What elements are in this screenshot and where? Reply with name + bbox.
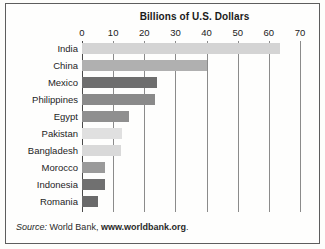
x-tick-label: 20 (139, 27, 150, 38)
x-tick-label: 50 (232, 27, 243, 38)
bar-row (82, 143, 300, 160)
bar-china (82, 60, 207, 71)
source-url-link[interactable]: www.worldbank.org (101, 222, 186, 232)
category-label-philippines: Philippines (8, 94, 78, 105)
chart-title: Billions of U.S. Dollars (82, 11, 307, 22)
bar-romania (82, 196, 98, 207)
bar-row (82, 194, 300, 211)
category-label-china: China (8, 60, 78, 71)
bar-row (82, 58, 300, 75)
bar-philippines (82, 94, 155, 105)
bar-morocco (82, 162, 105, 173)
category-label-bangladesh: Bangladesh (8, 145, 78, 156)
x-tick-label: 0 (79, 27, 84, 38)
x-tick-label: 70 (295, 27, 306, 38)
source-prefix: Source: (16, 222, 47, 232)
bar-mexico (82, 77, 157, 88)
bar-egypt (82, 111, 129, 122)
bar-pakistan (82, 128, 122, 139)
bar-row (82, 109, 300, 126)
x-tick-label: 60 (264, 27, 275, 38)
x-axis-tick-labels: 010203040506070 (0, 27, 325, 40)
x-tick-label: 30 (170, 27, 181, 38)
category-label-indonesia: Indonesia (8, 179, 78, 190)
category-label-mexico: Mexico (8, 77, 78, 88)
x-tick-label: 40 (201, 27, 212, 38)
source-note: Source: World Bank, www.worldbank.org. (16, 222, 189, 232)
plot-area (82, 41, 300, 212)
chart-figure: Billions of U.S. Dollars 010203040506070… (0, 0, 325, 249)
bar-row (82, 75, 300, 92)
category-label-egypt: Egypt (8, 111, 78, 122)
source-organization: World Bank, (47, 222, 98, 232)
bar-india (82, 43, 280, 54)
bar-series (82, 41, 300, 212)
bar-row (82, 177, 300, 194)
bar-bangladesh (82, 145, 121, 156)
category-label-romania: Romania (8, 196, 78, 207)
bar-row (82, 41, 300, 58)
category-label-pakistan: Pakistan (8, 128, 78, 139)
category-axis-labels: IndiaChinaMexicoPhilippinesEgyptPakistan… (8, 41, 78, 212)
x-tick-label: 10 (108, 27, 119, 38)
category-label-india: India (8, 43, 78, 54)
gridline (300, 41, 301, 212)
bar-indonesia (82, 179, 105, 190)
bar-row (82, 126, 300, 143)
bar-row (82, 160, 300, 177)
category-label-morocco: Morocco (8, 162, 78, 173)
source-suffix: . (186, 222, 189, 232)
bar-row (82, 92, 300, 109)
